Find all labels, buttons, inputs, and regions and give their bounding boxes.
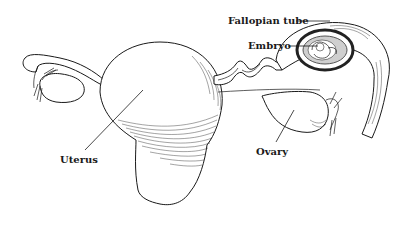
- left-ovary: [34, 68, 84, 103]
- reproductive-anatomy-diagram: Fallopian tube Embryo Uterus Ovary: [0, 0, 403, 226]
- uterus: [100, 42, 222, 205]
- label-fallopian-tube: Fallopian tube: [228, 15, 309, 26]
- label-ovary: Ovary: [256, 146, 289, 157]
- label-uterus: Uterus: [60, 154, 98, 165]
- gestational-sac: [297, 30, 353, 70]
- label-embryo: Embryo: [248, 40, 291, 51]
- right-ovary: [262, 91, 342, 136]
